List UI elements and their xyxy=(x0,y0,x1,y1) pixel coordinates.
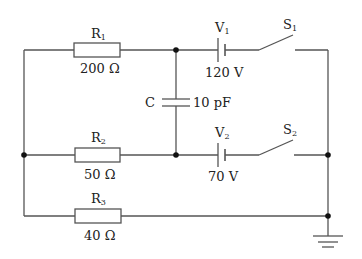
switch-s1-blade xyxy=(259,35,293,50)
v1-label: V1 xyxy=(215,21,229,36)
r3-value: 40 Ω xyxy=(84,229,115,242)
capacitor-value: 10 pF xyxy=(193,96,231,109)
switch-s2-blade xyxy=(259,140,293,155)
junction-node xyxy=(21,152,27,158)
v1-value: 120 V xyxy=(205,66,243,79)
r2-label: R2 xyxy=(91,131,106,146)
resistor-r1 xyxy=(74,43,120,57)
junction-node xyxy=(173,47,179,53)
v2-label: V2 xyxy=(215,126,229,141)
v2-value: 70 V xyxy=(208,170,238,183)
s2-label: S2 xyxy=(283,123,297,138)
capacitor-label: C xyxy=(145,96,155,109)
r2-value: 50 Ω xyxy=(84,168,115,181)
s1-label: S1 xyxy=(283,18,297,33)
r1-label: R1 xyxy=(91,27,106,42)
circuit-diagram xyxy=(0,0,362,259)
r3-label: R3 xyxy=(91,192,106,207)
junction-node xyxy=(173,152,179,158)
resistor-r3 xyxy=(75,209,121,223)
junction-node xyxy=(325,152,331,158)
resistor-r2 xyxy=(75,148,120,162)
junction-node xyxy=(325,213,331,219)
r1-value: 200 Ω xyxy=(80,62,120,75)
